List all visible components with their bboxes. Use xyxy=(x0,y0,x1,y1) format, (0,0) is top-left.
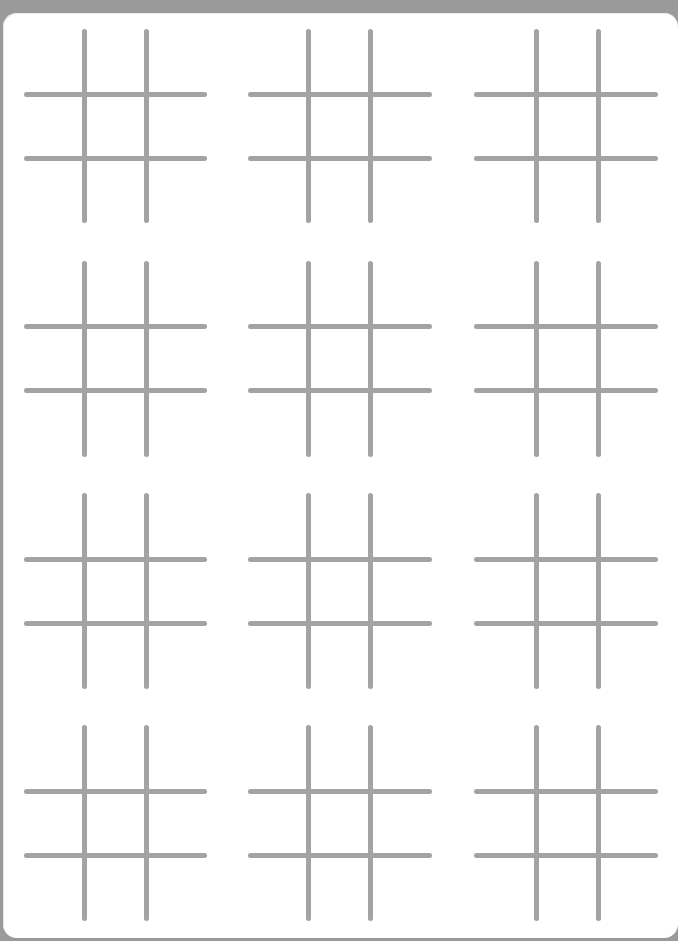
horizontal-grid-line xyxy=(474,789,658,794)
horizontal-grid-line xyxy=(248,789,432,794)
vertical-grid-line xyxy=(306,29,311,223)
vertical-grid-line xyxy=(82,261,87,457)
vertical-grid-line xyxy=(144,261,149,457)
horizontal-grid-line xyxy=(24,621,207,626)
vertical-grid-line xyxy=(82,493,87,689)
vertical-grid-line xyxy=(368,493,373,689)
horizontal-grid-line xyxy=(24,156,207,161)
horizontal-grid-line xyxy=(248,388,432,393)
vertical-grid-line xyxy=(144,29,149,223)
horizontal-grid-line xyxy=(24,853,207,858)
vertical-grid-line xyxy=(534,29,539,223)
horizontal-grid-line xyxy=(474,557,658,562)
vertical-grid-line xyxy=(596,261,601,457)
horizontal-grid-line xyxy=(248,324,432,329)
vertical-grid-line xyxy=(306,725,311,921)
vertical-grid-line xyxy=(368,261,373,457)
horizontal-grid-line xyxy=(24,789,207,794)
horizontal-grid-line xyxy=(474,324,658,329)
horizontal-grid-line xyxy=(24,557,207,562)
horizontal-grid-line xyxy=(248,853,432,858)
horizontal-grid-line xyxy=(248,621,432,626)
vertical-grid-line xyxy=(306,493,311,689)
vertical-grid-line xyxy=(534,261,539,457)
vertical-grid-line xyxy=(596,493,601,689)
horizontal-grid-line xyxy=(24,92,207,97)
horizontal-grid-line xyxy=(474,621,658,626)
vertical-grid-line xyxy=(368,29,373,223)
vertical-grid-line xyxy=(306,261,311,457)
horizontal-grid-line xyxy=(24,324,207,329)
horizontal-grid-line xyxy=(474,853,658,858)
vertical-grid-line xyxy=(82,725,87,921)
horizontal-grid-line xyxy=(474,388,658,393)
horizontal-grid-line xyxy=(474,92,658,97)
horizontal-grid-line xyxy=(248,92,432,97)
vertical-grid-line xyxy=(596,29,601,223)
vertical-grid-line xyxy=(82,29,87,223)
vertical-grid-line xyxy=(534,493,539,689)
paper-sheet xyxy=(3,13,678,938)
vertical-grid-line xyxy=(596,725,601,921)
horizontal-grid-line xyxy=(474,156,658,161)
vertical-grid-line xyxy=(368,725,373,921)
vertical-grid-line xyxy=(144,725,149,921)
vertical-grid-line xyxy=(144,493,149,689)
horizontal-grid-line xyxy=(248,156,432,161)
vertical-grid-line xyxy=(534,725,539,921)
horizontal-grid-line xyxy=(248,557,432,562)
horizontal-grid-line xyxy=(24,388,207,393)
